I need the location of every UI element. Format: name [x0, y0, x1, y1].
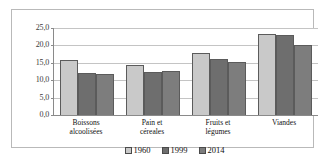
x-axis-label-line: Fruits et: [185, 118, 251, 127]
x-axis-label-line: légumes: [185, 127, 251, 136]
bar-group: [252, 28, 318, 115]
x-axis-category-labels: BoissonsalcooliséesPain etcérealesFruits…: [53, 118, 318, 140]
y-axis-tick-label: 25,0: [23, 24, 49, 32]
x-axis-label-line: céreales: [119, 127, 185, 136]
bar-2014[interactable]: [294, 45, 312, 115]
bar-2014[interactable]: [96, 74, 114, 115]
bar-2014[interactable]: [228, 62, 246, 115]
bar-1960[interactable]: [192, 53, 210, 115]
bar-1999[interactable]: [78, 73, 96, 115]
x-axis-label-line: Pain et: [119, 118, 185, 127]
legend-item-2014[interactable]: 2014: [199, 145, 225, 155]
y-axis-tick-label: 15,0: [23, 59, 49, 67]
y-axis-tick-label: 5,0: [23, 94, 49, 102]
bar-1960[interactable]: [126, 65, 144, 115]
legend-label: 1999: [171, 145, 188, 155]
x-axis-label: Viandes: [251, 118, 317, 127]
y-axis-tick-label: 10,0: [23, 76, 49, 84]
legend-item-1960[interactable]: 1960: [125, 145, 151, 155]
y-axis-tick-mark: [51, 115, 54, 116]
x-axis-label: Boissonsalcoolisées: [53, 118, 119, 136]
x-axis-label-line: Boissons: [53, 118, 119, 127]
y-axis-tick-label: 20,0: [23, 41, 49, 49]
y-axis: 25,020,015,010,05,00,0: [21, 28, 49, 116]
legend-swatch-2014: [199, 147, 206, 154]
chart-legend: 196019992014: [23, 143, 325, 157]
bar-group: [186, 28, 252, 115]
plot-area: [53, 28, 318, 116]
x-axis-label: Fruits etlégumes: [185, 118, 251, 136]
bar-1960[interactable]: [258, 34, 276, 115]
legend-swatch-1960: [125, 147, 132, 154]
bar-group: [120, 28, 186, 115]
bar-1999[interactable]: [144, 72, 162, 115]
bar-group: [54, 28, 120, 115]
y-axis-tick-label: 0,0: [23, 111, 49, 119]
bar-2014[interactable]: [162, 71, 180, 115]
x-axis-label-line: Viandes: [251, 118, 317, 127]
bar-1960[interactable]: [60, 60, 78, 115]
chart-frame: 25,020,015,010,05,00,0 Boissonsalcoolisé…: [11, 9, 314, 148]
bar-1999[interactable]: [210, 59, 228, 115]
legend-item-1999[interactable]: 1999: [162, 145, 188, 155]
bar-1999[interactable]: [276, 35, 294, 115]
legend-swatch-1999: [162, 147, 169, 154]
x-axis-label-line: alcoolisées: [53, 127, 119, 136]
chart-screenshot: 25,020,015,010,05,00,0 Boissonsalcoolisé…: [0, 0, 325, 158]
legend-label: 2014: [208, 145, 225, 155]
x-axis-label: Pain etcéreales: [119, 118, 185, 136]
legend-label: 1960: [134, 145, 151, 155]
